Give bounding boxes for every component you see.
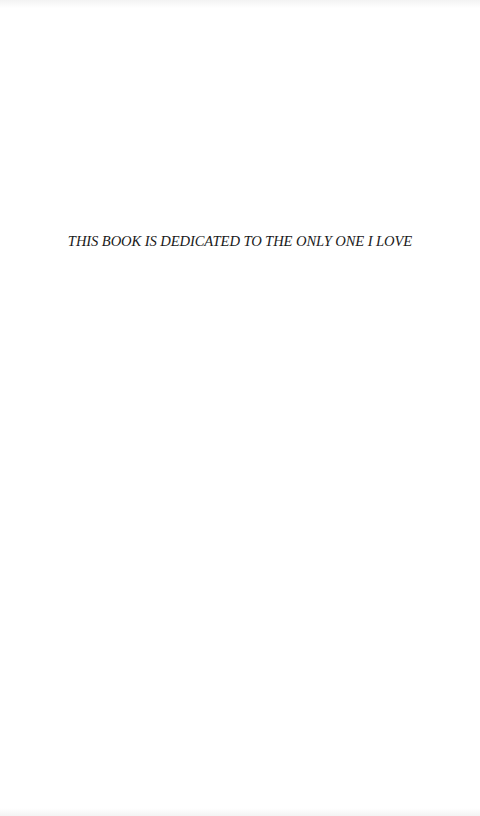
scan-edge-bottom	[0, 808, 480, 816]
dedication-text: THIS BOOK IS DEDICATED TO THE ONLY ONE I…	[0, 232, 480, 250]
book-page: THIS BOOK IS DEDICATED TO THE ONLY ONE I…	[0, 0, 480, 816]
scan-edge-top	[0, 0, 480, 8]
